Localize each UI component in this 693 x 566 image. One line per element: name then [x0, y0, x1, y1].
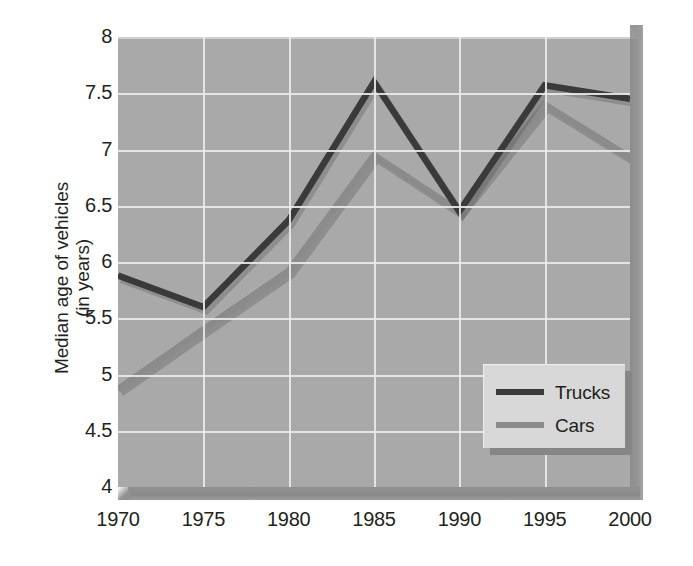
legend-box: TrucksCars — [483, 364, 625, 448]
x-axis-tick-label: 1985 — [329, 506, 419, 532]
x-axis-tick-labels: 1970197519801985199019952000 — [0, 506, 693, 546]
y-axis-tick-label: 4.5 — [40, 420, 112, 440]
vertical-gridline — [203, 37, 205, 487]
x-axis-tick-label: 1995 — [500, 506, 590, 532]
legend-swatch-cars — [496, 422, 544, 428]
x-axis-tick-label: 1980 — [244, 506, 334, 532]
legend-item[interactable]: Cars — [484, 408, 626, 442]
vertical-gridline — [459, 37, 461, 487]
y-axis-tick-label: 6.5 — [40, 195, 112, 215]
vertical-gridline — [374, 37, 376, 487]
y-axis-tick-label: 4 — [40, 476, 112, 496]
legend-item[interactable]: Trucks — [484, 375, 626, 409]
x-axis-tick-label: 1970 — [73, 506, 163, 532]
vertical-gridline — [289, 37, 291, 487]
y-axis-tick-label: 7.5 — [40, 82, 112, 102]
x-axis-tick-label: 1990 — [414, 506, 504, 532]
legend-label: Cars — [555, 416, 594, 435]
plot-bottom-bevel — [128, 487, 640, 500]
y-axis-tick-label: 5 — [40, 364, 112, 384]
legend-swatch-trucks — [496, 389, 544, 395]
y-axis-tick-label: 8 — [40, 26, 112, 46]
y-axis-tick-label: 5.5 — [40, 307, 112, 327]
y-axis-tick-labels: 87.576.565.554.54 — [40, 0, 112, 566]
x-axis-tick-label: 1975 — [158, 506, 248, 532]
line-chart: Median age of vehicles (in years) 87.576… — [0, 0, 693, 566]
chart-legend: TrucksCars — [483, 364, 625, 448]
x-axis-tick-label: 2000 — [585, 506, 675, 532]
legend-label: Trucks — [555, 383, 610, 402]
y-axis-tick-label: 7 — [40, 139, 112, 159]
y-axis-tick-label: 6 — [40, 251, 112, 271]
plot-topright-bevel — [630, 25, 643, 39]
